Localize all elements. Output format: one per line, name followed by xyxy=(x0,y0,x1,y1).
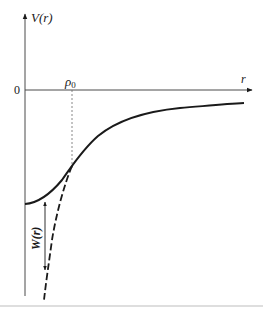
potential-curve-solid xyxy=(25,103,244,204)
potential-curve-dashed xyxy=(44,166,72,300)
rho0-subscript: 0 xyxy=(71,80,76,90)
x-axis-label: r xyxy=(241,72,246,86)
w-annotation-label: W(r) xyxy=(29,227,43,250)
diagram-canvas: V(r) r 0 ρ0 W(r) xyxy=(0,0,263,310)
y-axis-label: V(r) xyxy=(31,10,53,25)
rho0-symbol: ρ xyxy=(64,74,71,89)
origin-label: 0 xyxy=(14,83,20,97)
rho0-label: ρ0 xyxy=(64,74,76,90)
